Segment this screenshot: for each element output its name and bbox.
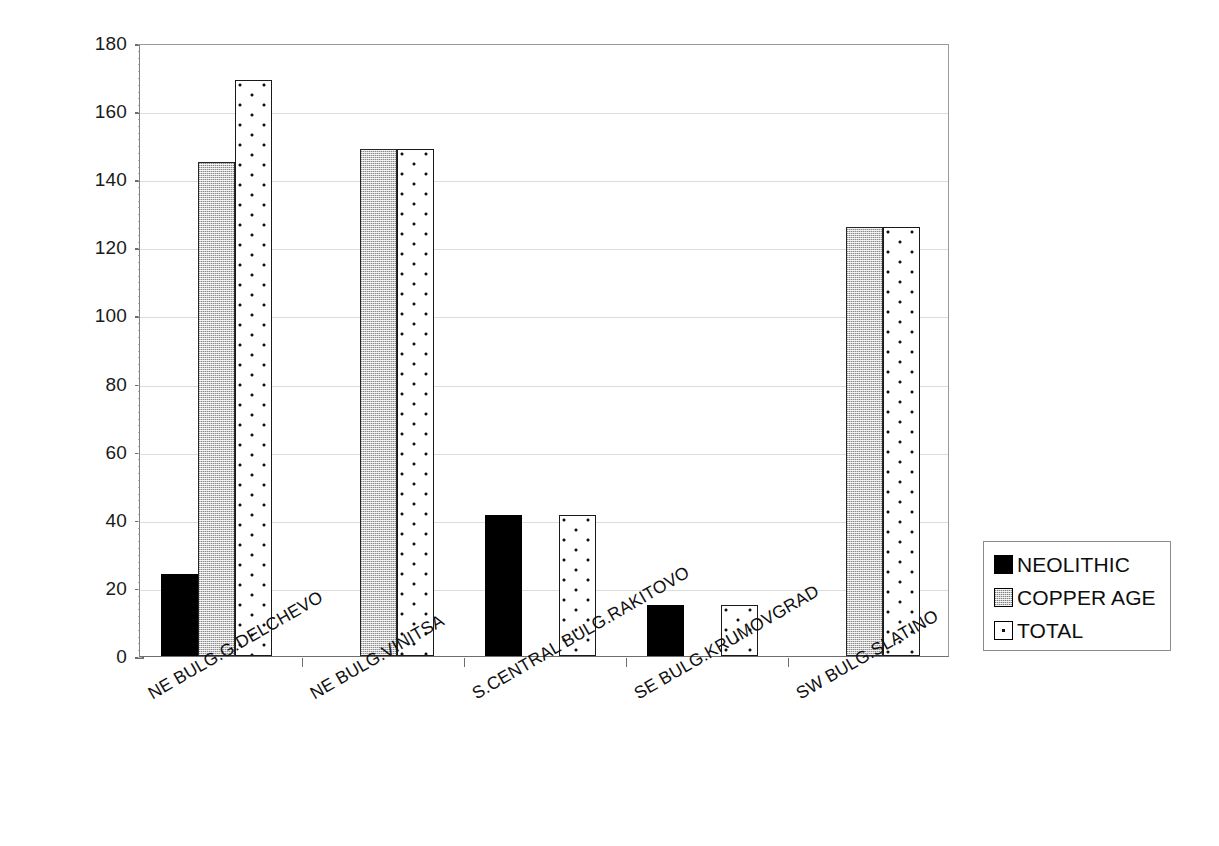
legend-label-copper-age: COPPER AGE (1017, 587, 1156, 608)
bar-copper-age (198, 162, 235, 656)
category-tick-mark (464, 658, 465, 667)
legend-swatch-neolithic-icon (994, 555, 1013, 574)
y-axis-tick-label: 60 (67, 442, 127, 464)
y-axis-tick-label: 180 (67, 33, 127, 55)
y-axis-minor-tick (138, 657, 142, 658)
plot-area (139, 44, 949, 657)
y-axis-tick-label: 160 (67, 101, 127, 123)
y-axis-tick-label: 100 (67, 305, 127, 327)
legend-label-neolithic: NEOLITHIC (1017, 554, 1130, 575)
bar-neolithic (485, 515, 522, 656)
legend-swatch-copper-age-icon (994, 588, 1013, 607)
category-tick-mark (626, 658, 627, 667)
y-axis-tick-label: 0 (67, 646, 127, 668)
bar-copper-age (846, 227, 883, 656)
category-tick-mark (302, 658, 303, 667)
legend: NEOLITHIC COPPER AGE TOTAL (983, 541, 1171, 651)
legend-item-total: TOTAL (994, 614, 1170, 647)
legend-swatch-total-icon (994, 621, 1013, 640)
legend-label-total: TOTAL (1017, 620, 1083, 641)
bar-neolithic (647, 605, 684, 656)
bar-copper-age (360, 149, 397, 656)
y-axis-tick-label: 40 (67, 510, 127, 532)
bar-total (397, 149, 434, 656)
y-axis-tick-label: 140 (67, 169, 127, 191)
legend-item-neolithic: NEOLITHIC (994, 548, 1170, 581)
bar-chart: 020406080100120140160180 NE BULG.G.DELCH… (0, 0, 1219, 846)
bar-total (883, 227, 920, 656)
bar-total (235, 80, 272, 656)
y-axis-tick-label: 20 (67, 578, 127, 600)
legend-item-copper-age: COPPER AGE (994, 581, 1170, 614)
y-axis-tick-label: 120 (67, 237, 127, 259)
y-axis-tick-label: 80 (67, 374, 127, 396)
bar-neolithic (161, 574, 198, 656)
category-tick-mark (788, 658, 789, 667)
